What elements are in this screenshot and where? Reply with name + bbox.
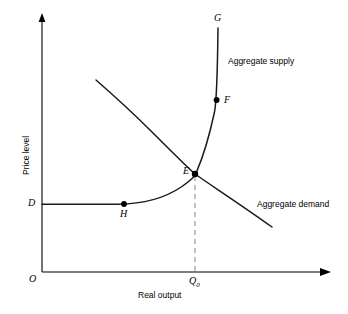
aggregate-demand-label: Aggregate demand	[257, 200, 329, 209]
point-marker-F	[214, 97, 220, 103]
chart-canvas	[0, 0, 348, 314]
price-level-d-label: D	[28, 198, 35, 208]
y-axis-title: Price level	[22, 136, 31, 175]
aggregate-supply-curve	[42, 28, 218, 204]
aggregate-supply-demand-figure: Price level Real output O D Q0 G F E H A…	[0, 0, 348, 314]
output-q0-subscript: 0	[196, 281, 200, 289]
point-g-label: G	[214, 13, 221, 23]
point-f-label: F	[224, 95, 230, 105]
origin-label: O	[29, 274, 36, 284]
point-h-label: H	[120, 209, 127, 219]
point-marker-E	[192, 171, 198, 177]
output-q0-label: Q0	[189, 276, 200, 289]
x-axis-title: Real output	[138, 291, 181, 300]
aggregate-supply-label: Aggregate supply	[228, 57, 294, 66]
point-e-label: E	[183, 166, 189, 176]
x-axis	[42, 268, 331, 276]
y-axis	[39, 13, 46, 272]
point-marker-H	[121, 201, 127, 207]
